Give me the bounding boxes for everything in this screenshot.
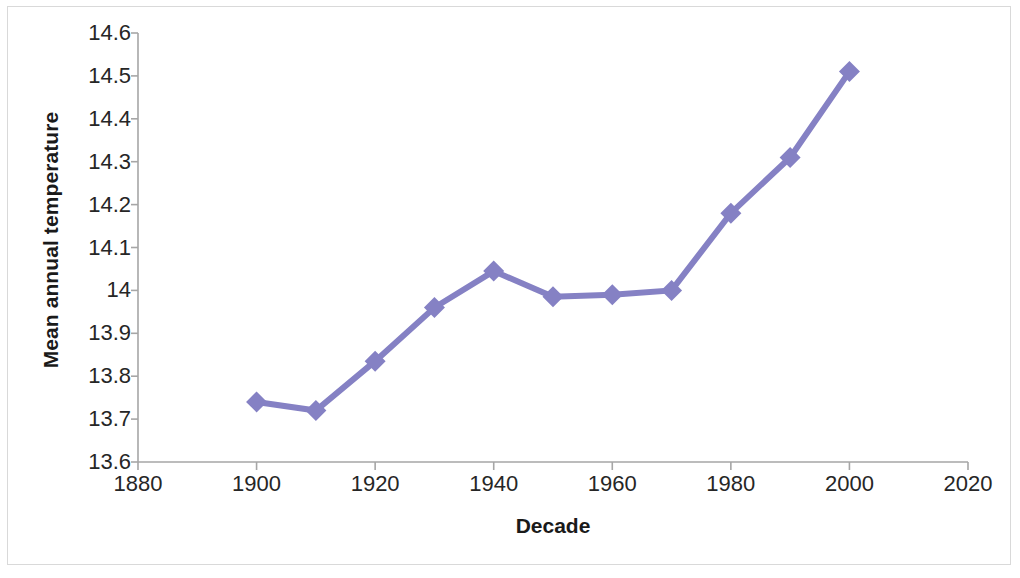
data-point-marker <box>246 391 267 412</box>
data-point-marker <box>543 286 564 307</box>
plot-area <box>0 0 1020 578</box>
chart-container: Mean annual temperature Decade 14.614.51… <box>0 0 1020 578</box>
series-line <box>257 72 850 411</box>
data-point-marker <box>602 284 623 305</box>
